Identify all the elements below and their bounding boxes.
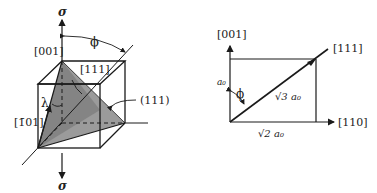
direction-001-label: [001] (34, 45, 64, 58)
phi-label-right: ϕ (236, 87, 244, 101)
stress-top-label: σ (58, 5, 67, 19)
direction-111-label: [111] (80, 63, 110, 76)
projection-figure: [001] [111] [110] a₀ ϕ √3 a₀ √2 a₀ (217, 28, 368, 139)
diagonal-arrowhead (307, 59, 316, 66)
direction-m101-label: [1̄01] (14, 116, 44, 129)
cube-figure: σ [001] ϕ [111] λ [1̄01] (111) σ (14, 5, 170, 193)
stress-bottom-label: σ (58, 179, 67, 193)
axis-001-label: [001] (217, 28, 247, 41)
lambda-label: λ (41, 96, 49, 110)
diagonal-length-label: √3 a₀ (275, 91, 301, 102)
phi-label: ϕ (90, 34, 99, 49)
plane-111-label: (111) (140, 94, 170, 107)
side-a0-label: a₀ (217, 77, 226, 87)
axis-110-label: [110] (338, 116, 368, 129)
base-length-label: √2 a₀ (258, 128, 284, 139)
plane-111-leader (112, 100, 136, 106)
diagram-canvas: σ [001] ϕ [111] λ [1̄01] (111) σ [001] [… (0, 0, 377, 193)
direction-111-label-right: [111] (333, 42, 363, 55)
